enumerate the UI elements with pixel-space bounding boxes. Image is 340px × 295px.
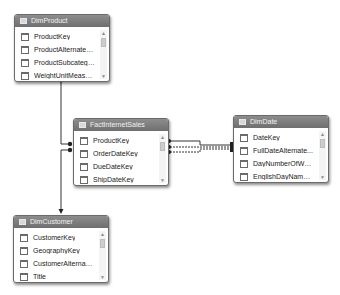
scroll-up-icon[interactable]: ▲ [159, 134, 166, 140]
field-item[interactable]: GeographyKey [20, 244, 94, 257]
field-item[interactable]: DueDateKey [80, 160, 154, 173]
column-icon [240, 134, 248, 142]
column-icon [21, 46, 29, 54]
table-icon [239, 119, 246, 125]
field-list: ProductKey OrderDateKey DueDateKey ShipD… [74, 131, 168, 185]
field-item[interactable]: DateKey [240, 131, 314, 144]
table-icon [19, 219, 26, 225]
table-dimcustomer[interactable]: DimCustomer CustomerKey GeographyKey Cus… [13, 215, 109, 283]
relationship-line-product[interactable] [60, 80, 73, 147]
table-dimdate[interactable]: DimDate DateKey FullDateAlternate... Day… [233, 115, 329, 183]
column-icon [240, 147, 248, 155]
field-list: ProductKey ProductAlternateKey ProductSu… [15, 27, 109, 81]
scroll-thumb[interactable] [160, 142, 165, 151]
table-header[interactable]: FactInternetSales [74, 119, 168, 131]
table-title: DimDate [250, 116, 277, 128]
field-item[interactable]: OrderDateKey [80, 147, 154, 160]
field-item[interactable]: ProductSubcategor... [21, 56, 95, 69]
field-item[interactable]: WeightUnitMeasur... [21, 69, 95, 81]
column-icon [20, 247, 28, 255]
scroll-up-icon[interactable]: ▲ [100, 30, 107, 36]
field-item[interactable]: EnglishDayNameO... [240, 170, 314, 182]
field-item[interactable]: ShipDateKey [80, 173, 154, 185]
column-icon [240, 160, 248, 168]
column-icon [21, 72, 29, 80]
table-header[interactable]: DimProduct [15, 15, 109, 27]
diagram-canvas: DimProduct ProductKey ProductAlternateKe… [0, 0, 340, 295]
scrollbar[interactable]: ▲ ▼ [159, 134, 166, 183]
scroll-up-icon[interactable]: ▲ [319, 131, 326, 137]
scroll-thumb[interactable] [101, 38, 106, 47]
relationship-line-date-inactive-2[interactable] [167, 149, 232, 154]
field-item[interactable]: DayNumberOfWeek [240, 157, 314, 170]
column-icon [80, 163, 88, 171]
column-icon [240, 173, 248, 181]
relationship-line-date-active[interactable] [167, 139, 232, 145]
field-item[interactable]: CustomerAlternate... [20, 257, 94, 270]
scrollbar[interactable]: ▲ ▼ [99, 231, 106, 280]
table-header[interactable]: DimCustomer [14, 216, 108, 228]
scroll-thumb[interactable] [320, 139, 325, 148]
scroll-down-icon[interactable]: ▼ [100, 73, 107, 79]
scrollbar[interactable]: ▲ ▼ [319, 131, 326, 180]
scroll-up-icon[interactable]: ▲ [99, 231, 106, 237]
relationship-line-customer[interactable] [59, 148, 73, 214]
column-icon [80, 137, 88, 145]
scrollbar[interactable]: ▲ ▼ [100, 30, 107, 79]
field-item[interactable]: ProductAlternateKey [21, 43, 95, 56]
table-title: FactInternetSales [90, 119, 145, 131]
column-icon [80, 176, 88, 184]
table-icon [20, 18, 27, 24]
relationship-line-date-inactive-1[interactable] [167, 145, 232, 149]
scroll-down-icon[interactable]: ▼ [319, 174, 326, 180]
table-icon [79, 122, 86, 128]
table-title: DimCustomer [30, 216, 73, 228]
column-icon [20, 273, 28, 281]
field-item[interactable]: ProductKey [21, 30, 95, 43]
column-icon [80, 150, 88, 158]
column-icon [20, 234, 28, 242]
field-item[interactable]: Title [20, 270, 94, 282]
field-item[interactable]: CustomerKey [20, 231, 94, 244]
column-icon [20, 260, 28, 268]
column-icon [21, 59, 29, 67]
field-list: DateKey FullDateAlternate... DayNumberOf… [234, 128, 328, 182]
field-item[interactable]: FullDateAlternate... [240, 144, 314, 157]
scroll-down-icon[interactable]: ▼ [159, 177, 166, 183]
table-header[interactable]: DimDate [234, 116, 328, 128]
column-icon [21, 33, 29, 41]
table-dimproduct[interactable]: DimProduct ProductKey ProductAlternateKe… [14, 14, 110, 82]
scroll-thumb[interactable] [100, 239, 105, 248]
field-list: CustomerKey GeographyKey CustomerAlterna… [14, 228, 108, 282]
table-factinternetsales[interactable]: FactInternetSales ProductKey OrderDateKe… [73, 118, 169, 186]
scroll-down-icon[interactable]: ▼ [99, 274, 106, 280]
field-item[interactable]: ProductKey [80, 134, 154, 147]
table-title: DimProduct [31, 15, 68, 27]
